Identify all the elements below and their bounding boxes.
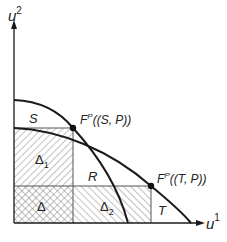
y-axis-label: u2	[8, 5, 22, 24]
point-label-fp-sp: FP((S, P))	[80, 112, 131, 127]
point-fp-tp	[148, 183, 154, 189]
x-axis-label: u1	[206, 212, 220, 232]
x-axis-arrow-icon	[196, 220, 205, 226]
delta2-region	[73, 186, 151, 223]
region-label-t: T	[158, 203, 167, 218]
region-label-delta: Δ	[37, 199, 46, 214]
region-label-r: R	[88, 169, 97, 184]
point-fp-sp	[70, 125, 76, 131]
bargaining-diagram: u2 u1 S R T Δ1 Δ Δ2 FP((S, P)) FP((T, P)…	[0, 0, 227, 242]
point-label-fp-tp: FP((T, P))	[157, 171, 207, 186]
region-label-s: S	[29, 111, 38, 126]
